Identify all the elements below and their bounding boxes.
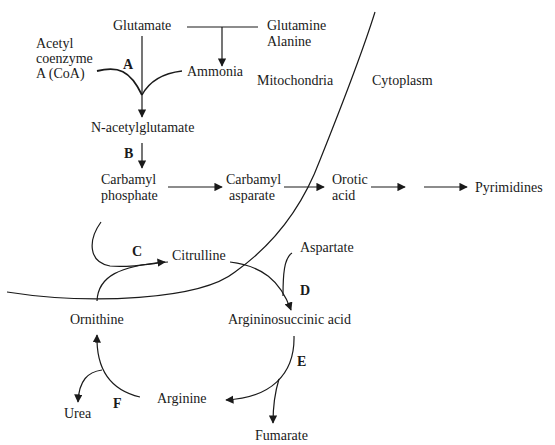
arrow-ammonia-join: [142, 71, 182, 95]
metabolite-argininosuccinic-acid: Argininosuccinic acid: [228, 312, 351, 327]
metabolite-aspartate: Aspartate: [300, 240, 354, 255]
metabolite-carbamyl-asparate-line2: asparate: [229, 188, 275, 203]
arrow-fumarate: [273, 379, 279, 423]
arrow-acetylcoa-join: [97, 69, 142, 95]
enzyme-label-c: C: [132, 244, 142, 259]
metabolite-fumarate: Fumarate: [255, 428, 308, 443]
metabolite-glutamine: Glutamine: [267, 18, 326, 33]
metabolite-orotic-acid-line2: acid: [332, 188, 355, 203]
arrow-aspartate-join: [283, 253, 292, 296]
arrow-arginine-ornithine: [97, 335, 140, 397]
compartment-label-cytoplasm: Cytoplasm: [372, 73, 433, 88]
metabolite-n-acetylglutamate: N-acetylglutamate: [91, 120, 194, 135]
metabolite-acetyl-coa-line3: A (CoA): [36, 66, 85, 81]
arrow-urea: [78, 370, 102, 402]
metabolite-citrulline: Citrulline: [172, 248, 226, 263]
enzyme-label-f: F: [113, 396, 122, 411]
metabolite-orotic-acid-line1: Orotic: [332, 172, 368, 187]
metabolite-acetyl-coa-line2: coenzyme: [36, 51, 93, 66]
arrow-c-carbamyl: [92, 222, 168, 267]
metabolite-arginine: Arginine: [157, 391, 207, 406]
metabolite-ornithine: Ornithine: [70, 312, 124, 327]
metabolite-ammonia: Ammonia: [187, 64, 243, 79]
enzyme-label-a: A: [123, 57, 133, 72]
enzyme-label-e: E: [297, 354, 306, 369]
compartment-label-mitochondria: Mitochondria: [257, 73, 333, 88]
metabolite-acetyl-coa-line1: Acetyl: [36, 36, 73, 51]
metabolite-pyrimidines: Pyrimidines: [475, 180, 543, 195]
arrow-asa-arginine: [226, 336, 294, 400]
metabolite-urea: Urea: [64, 406, 91, 421]
metabolite-carbamyl-asparate-line1: Carbamyl: [226, 172, 281, 187]
arrow-ornithine-citrulline: [97, 262, 165, 301]
enzyme-label-b: B: [124, 146, 133, 161]
metabolite-carbamyl-phosphate-line1: Carbamyl: [101, 172, 156, 187]
metabolite-alanine: Alanine: [267, 34, 311, 49]
metabolite-carbamyl-phosphate-line2: phosphate: [101, 188, 158, 203]
metabolite-glutamate: Glutamate: [113, 18, 171, 33]
enzyme-label-d: D: [300, 283, 310, 298]
